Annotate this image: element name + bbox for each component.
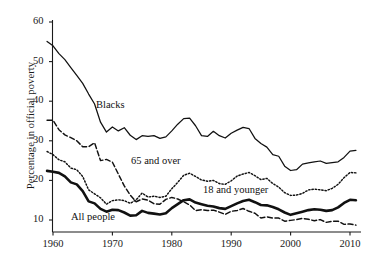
series-label-18-and-younger: 18 and younger <box>203 184 268 195</box>
y-tick-label-40: 40 <box>20 94 44 105</box>
y-tick-label-50: 50 <box>20 55 44 66</box>
poverty-rate-line-chart: Percentage in official poverty 102030405… <box>0 0 371 266</box>
y-tick-label-10: 10 <box>20 213 44 224</box>
series-label-65-and-over: 65 and over <box>131 155 181 166</box>
x-tick-label-2010: 2010 <box>330 238 370 249</box>
series-line-18-and-younger <box>47 151 356 204</box>
chart-plot-area <box>0 0 371 266</box>
series-label-all-people: All people <box>71 211 115 222</box>
x-tick-label-1970: 1970 <box>92 238 132 249</box>
y-tick-label-20: 20 <box>20 173 44 184</box>
x-tick-label-1960: 1960 <box>33 238 73 249</box>
y-tick-label-60: 60 <box>20 15 44 26</box>
x-tick-label-2000: 2000 <box>271 238 311 249</box>
x-tick-label-1990: 1990 <box>211 238 251 249</box>
series-line-blacks <box>47 41 356 170</box>
x-tick-label-1980: 1980 <box>152 238 192 249</box>
y-axis-title: Percentage in official poverty <box>25 16 36 236</box>
data-series-group <box>47 41 356 225</box>
series-line-all-people <box>47 171 356 216</box>
series-label-blacks: Blacks <box>96 99 125 110</box>
y-tick-label-30: 30 <box>20 134 44 145</box>
